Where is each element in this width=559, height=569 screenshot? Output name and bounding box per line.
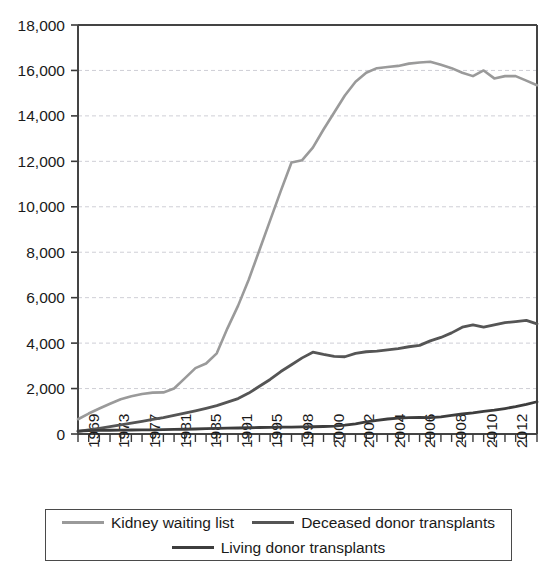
x-axis-tick-label: 2000	[330, 413, 347, 448]
x-axis-tick-label: 1995	[268, 414, 285, 448]
legend-item-kidney-waiting-list[interactable]: Kidney waiting list	[62, 514, 234, 532]
y-axis-tick-label: 4,000	[26, 335, 65, 352]
legend-swatch-icon	[172, 546, 214, 549]
x-axis-tick-label: 1981	[177, 414, 194, 448]
y-axis-tick-label: 16,000	[18, 62, 66, 79]
kidney-transplant-line-chart: 02,0004,0006,0008,00010,00012,00014,0001…	[0, 0, 559, 569]
legend-swatch-icon	[62, 521, 104, 524]
legend-item-label: Deceased donor transplants	[301, 514, 495, 532]
y-axis-tick-label: 0	[56, 426, 65, 443]
x-axis-tick-label: 2012	[513, 414, 530, 448]
x-axis-tick-label: 1991	[238, 414, 255, 448]
y-axis-tick-label: 8,000	[26, 244, 65, 261]
x-axis-tick-label: 2008	[452, 414, 469, 448]
x-axis-tick-label: 1998	[299, 414, 316, 448]
legend-swatch-icon	[252, 521, 294, 524]
y-axis-tick-label: 18,000	[18, 17, 66, 34]
x-axis-tick-label: 2002	[360, 414, 377, 448]
legend-item-label: Kidney waiting list	[111, 514, 234, 532]
y-axis-tick-label: 2,000	[26, 380, 65, 397]
y-axis-tick-label: 12,000	[18, 153, 66, 170]
legend-item-label: Living donor transplants	[221, 539, 386, 557]
series-line-kidney-waiting-list	[78, 62, 537, 419]
x-axis-tick-label: 2010	[483, 413, 500, 448]
legend-item-living-donor-transplants[interactable]: Living donor transplants	[172, 539, 386, 557]
x-axis-tick-label: 1985	[207, 414, 224, 448]
y-axis-tick-label: 14,000	[18, 107, 66, 124]
legend-row: Kidney waiting listDeceased donor transp…	[46, 510, 511, 535]
y-axis-tick-label: 6,000	[26, 289, 65, 306]
legend-item-deceased-donor-transplants[interactable]: Deceased donor transplants	[252, 514, 495, 532]
chart-legend: Kidney waiting listDeceased donor transp…	[45, 509, 512, 561]
chart-plot-area: 02,0004,0006,0008,00010,00012,00014,0001…	[0, 0, 559, 500]
legend-row: Living donor transplants	[46, 535, 511, 560]
y-axis-tick-label: 10,000	[18, 198, 66, 215]
